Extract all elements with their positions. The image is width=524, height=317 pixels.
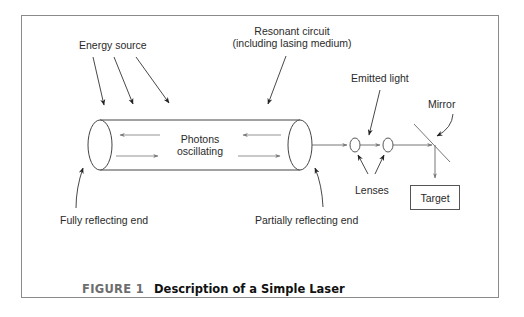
energy-source-label: Energy source bbox=[79, 39, 147, 51]
partially-reflecting-arrow bbox=[315, 168, 323, 207]
photons-line1: Photons bbox=[167, 133, 233, 145]
fully-reflecting-end bbox=[88, 120, 112, 170]
photons-line2: oscillating bbox=[167, 145, 233, 157]
fully-reflecting-arrow bbox=[76, 168, 83, 208]
figure-caption: FIGURE 1Description of a Simple Laser bbox=[82, 282, 345, 296]
resonant-circuit-arrow bbox=[268, 56, 286, 104]
partially-reflecting-end-label: Partially reflecting end bbox=[255, 214, 358, 226]
figure-number: FIGURE 1 bbox=[82, 282, 144, 296]
mirror-arrow bbox=[437, 114, 453, 136]
emitted-light-label: Emitted light bbox=[351, 72, 409, 84]
lens-2 bbox=[383, 138, 393, 152]
lenses-label: Lenses bbox=[355, 184, 389, 196]
resonant-circuit-line1: Resonant circuit bbox=[226, 25, 358, 37]
resonant-circuit-label: Resonant circuit (including lasing mediu… bbox=[226, 25, 358, 49]
resonant-circuit-line2: (including lasing medium) bbox=[226, 37, 358, 49]
emitted-light-arrow bbox=[369, 90, 380, 135]
mirror-label: Mirror bbox=[428, 98, 455, 110]
energy-source-arrows bbox=[93, 57, 169, 105]
fully-reflecting-end-label: Fully reflecting end bbox=[60, 214, 148, 226]
photons-label: Photons oscillating bbox=[167, 133, 233, 157]
lenses-arrows bbox=[358, 155, 384, 174]
lens-1 bbox=[350, 138, 360, 152]
target-label: Target bbox=[420, 192, 449, 204]
target-box: Target bbox=[410, 185, 460, 210]
mirror-line bbox=[414, 124, 450, 162]
beam-path bbox=[312, 124, 450, 178]
partially-reflecting-end bbox=[288, 120, 312, 170]
figure-title: Description of a Simple Laser bbox=[154, 282, 345, 296]
